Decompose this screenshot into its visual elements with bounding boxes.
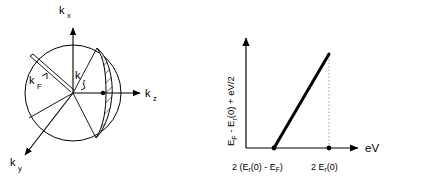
- kf-label: k F: [29, 74, 42, 91]
- fermi-sphere-panel: k x k z k y k F k r: [0, 0, 210, 185]
- ky-symbol: k: [10, 156, 16, 168]
- tick2-part-0: 2 E: [311, 162, 325, 172]
- wedge-line-left: [29, 93, 73, 118]
- kz-subscript: z: [153, 94, 157, 103]
- fermi-sphere-svg: k x k z k y k F k r: [0, 0, 210, 185]
- kx-subscript: x: [67, 11, 71, 20]
- tick-dot-right: [327, 146, 332, 151]
- kx-axis-label: k x: [59, 4, 71, 20]
- kr-subscript: r: [83, 77, 86, 86]
- figure-container: k x k z k y k F k r: [0, 0, 421, 185]
- ky-subscript: y: [18, 164, 22, 173]
- svg-text:EF - Er(0) + eV/2: EF - Er(0) + eV/2: [225, 76, 238, 146]
- tick1-part-0: 2 (E: [232, 162, 249, 172]
- kf-symbol: k: [29, 74, 35, 86]
- kr-symbol: k: [75, 69, 81, 81]
- tick1-part-2: (0) - E: [251, 162, 276, 172]
- data-line: [274, 54, 329, 148]
- y-axis-label: EF - Er(0) + eV/2: [225, 76, 238, 146]
- kf-radius-cap: [30, 54, 33, 56]
- wedge-line-lower: [73, 93, 96, 138]
- tick-label-right: 2 Er(0): [311, 162, 338, 173]
- energy-plot-svg: eV EF - Er(0) + eV/2 2 (Er(0) - EF) 2 Er…: [210, 0, 421, 185]
- tick1-part-4: ): [280, 162, 283, 172]
- ylabel-part-tail: (0) + eV/2: [225, 76, 236, 118]
- x-axis-label: eV: [365, 142, 379, 154]
- ky-axis-arrow: [25, 93, 73, 155]
- kz-axis-label: k z: [145, 87, 157, 103]
- kf-leader: [42, 73, 47, 79]
- kr-endpoint-dot: [101, 91, 105, 95]
- tick-dot-left: [272, 146, 277, 151]
- ky-axis-label: k y: [10, 156, 22, 173]
- kx-symbol: k: [59, 4, 65, 16]
- tick2-part-2: (0): [327, 162, 338, 172]
- tick-label-left: 2 (Er(0) - EF): [232, 162, 283, 173]
- energy-plot-panel: eV EF - Er(0) + eV/2 2 (Er(0) - EF) 2 Er…: [210, 0, 421, 185]
- kz-symbol: k: [145, 87, 151, 99]
- kf-subscript: F: [37, 82, 42, 91]
- ylabel-part-minusE: - E: [225, 121, 236, 136]
